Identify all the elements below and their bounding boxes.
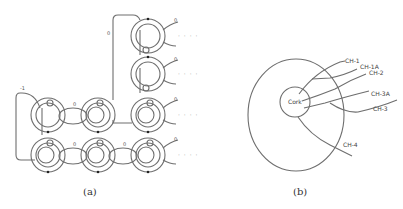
caption-b: (b) [293,186,307,197]
channel-ch2 [302,74,366,101]
cork-label: Cork [288,98,302,105]
ring-row2-col3: 0 · · · · [131,136,198,173]
dot-marker [147,171,150,174]
label-ch4: CH-4 [343,141,358,148]
link-row2-b [109,148,137,164]
panel-a-knot-diagram: 0 -1 0 · · · · 0 · · · · [16,15,198,197]
continuation-dots: · · · · [178,111,198,118]
label-strand: 0 [174,96,177,102]
label-link: 0 [73,101,76,107]
label-link: 0 [73,141,76,147]
ring-row1-col2 [81,98,115,133]
dot-marker [47,171,50,174]
label-ch1: CH-1 [345,57,360,64]
outer-boundary [248,59,344,171]
dot-marker [147,18,150,21]
ring-col3-row2: 0 · · · · [131,56,198,93]
link-row2-a [59,148,87,164]
figure-canvas: 0 -1 0 · · · · 0 · · · · [0,0,403,209]
label-ch3: CH-3 [373,105,388,112]
dot-marker [147,131,150,134]
dot-marker [97,171,100,174]
label-strand: 0 [174,136,177,142]
label-ch3a: CH-3A [371,90,391,97]
continuation-dots: · · · · [178,70,198,77]
continuation-dots: · · · · [178,151,198,158]
dot-marker [97,131,100,134]
label-ch2: CH-2 [369,69,384,76]
link-row1-b [113,120,132,123]
label-strand: 0 [174,17,177,23]
dot-marker [147,56,150,59]
dot-marker [47,131,50,134]
panel-b-cork-diagram: Cork CH-1 CH-1A CH-2 CH-3A CH-3 CH-4 (b) [248,57,397,197]
label-left-loop: -1 [20,85,25,91]
link-row1-a [59,108,87,124]
channel-ch3a [304,91,369,108]
label-link: 0 [123,141,126,147]
ring-row2-col2 [81,138,115,173]
ring-row1-col3: 0 · · · · [131,96,198,133]
caption-a: (a) [83,186,97,197]
continuation-dots: · · · · [178,32,198,39]
ring-col3-row1: 0 · · · · [131,17,198,55]
label-strand: 0 [174,56,177,62]
ring-row2-col1 [31,138,65,173]
label-top-loop: 0 [107,30,110,36]
ring-row1-col1 [31,98,65,135]
top-framing-loop [113,15,140,100]
